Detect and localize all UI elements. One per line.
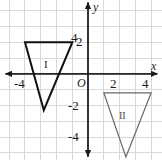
coordinate-plane-figure: 4 2 -2 -4 -4 2 4 O x y I II xyxy=(0,0,162,160)
x-axis-label: x xyxy=(151,60,156,72)
x-tick-label-2: 2 xyxy=(110,77,117,90)
y-axis-label: y xyxy=(93,1,98,13)
y-tick-label-2: 2 xyxy=(76,35,83,48)
y-tick-label-neg4: -4 xyxy=(68,130,79,143)
y-tick-label-neg2: -2 xyxy=(68,99,79,112)
shape-label-two: II xyxy=(119,111,126,121)
origin-label: O xyxy=(77,77,86,89)
x-tick-label-4: 4 xyxy=(142,77,149,90)
triangle-one xyxy=(25,42,72,110)
x-tick-label-neg4: -4 xyxy=(14,77,25,90)
shape-label-one: I xyxy=(44,59,48,70)
triangle-two xyxy=(104,93,151,157)
